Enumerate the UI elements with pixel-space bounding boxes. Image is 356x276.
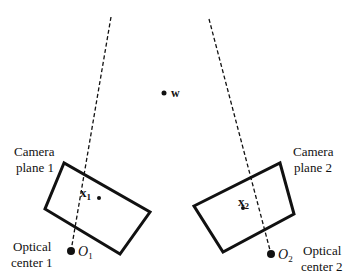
optical-center-2-caption-line2: center 2 [301,259,343,274]
camera-plane-1 [45,163,150,254]
optical-center-1-label: O1 [78,244,93,261]
optical-center-1 [67,247,75,255]
image-point-2-label: x2 [238,194,250,211]
camera-plane-1-label-line2: plane 1 [16,160,54,175]
world-point-label: w [171,86,180,100]
optical-center-2 [267,250,275,258]
image-point-1 [97,196,101,200]
camera-plane-2-label-line1: Camera [293,144,334,159]
world-point [162,91,167,96]
optical-center-1-caption-line1: Optical [13,239,52,254]
optical-center-2-caption-line1: Optical [303,243,342,258]
stereo-diagram: w x1 x2 O1 O2 Camera plane 1 Camera plan… [0,0,356,276]
optical-center-2-label: O2 [278,247,293,264]
ray-camera-1 [71,17,111,251]
camera-plane-1-label-line1: Camera [14,144,55,159]
camera-plane-2-label-line2: plane 2 [294,160,332,175]
image-point-1-label: x1 [80,185,92,202]
optical-center-1-caption-line2: center 1 [11,255,53,270]
ray-camera-2 [209,19,271,254]
